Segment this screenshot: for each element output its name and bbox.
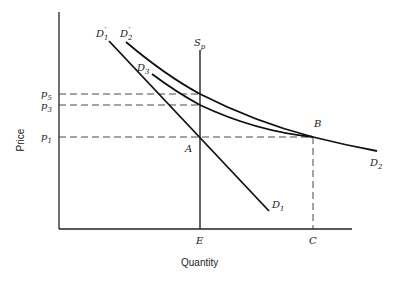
label-d1-prime: D1′: [95, 25, 109, 42]
price-label-p1: p1: [41, 131, 52, 145]
label-d3: D3: [136, 62, 150, 76]
point-b-label: B: [313, 118, 321, 129]
label-d1: D1: [271, 199, 285, 213]
x-axis-title: Quantity: [181, 257, 218, 268]
price-label-p3: p3: [41, 100, 52, 114]
y-axis-title: Price: [15, 128, 26, 151]
quantity-label-c: C: [309, 235, 317, 246]
label-d2: D2: [369, 157, 383, 171]
demand-curve-d1: [109, 41, 269, 211]
demand-curve-d2: [126, 42, 377, 151]
supply-demand-diagram: D1′ D2′ D3 Sp D1 D2 A B p5 p3 p1 E C Qua…: [0, 0, 397, 281]
quantity-label-e: E: [195, 235, 204, 246]
label-sp: Sp: [194, 37, 206, 51]
demand-curve-d3: [152, 74, 313, 137]
point-a-label: A: [184, 143, 192, 154]
label-d2-prime: D2′: [119, 25, 133, 42]
